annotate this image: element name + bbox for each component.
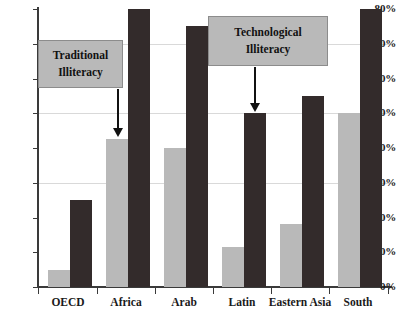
arrow-head-traditional xyxy=(113,128,123,137)
callout-technological-line2: Illiteracy xyxy=(246,41,291,58)
arrow-shaft-technological xyxy=(254,67,256,104)
bar-traditional-oecd xyxy=(48,270,70,287)
bar-technological-eastern-asia xyxy=(302,96,324,287)
callout-technological-line1: Technological xyxy=(234,24,301,41)
bar-traditional-africa xyxy=(106,139,128,287)
bar-technological-oecd xyxy=(70,200,92,287)
bar-traditional-south xyxy=(338,113,360,287)
x-category-label-latin: Latin xyxy=(214,296,270,308)
illiteracy-bar-chart: 80% 70% 60% 50% 40% 30% 20% 10% 0% OECD … xyxy=(0,0,396,316)
x-tick-mark-4 xyxy=(271,288,272,294)
bar-technological-south xyxy=(360,9,382,287)
x-tick-mark-1 xyxy=(97,288,98,294)
x-category-label-arab: Arab xyxy=(156,296,212,308)
x-tick-mark-3 xyxy=(213,288,214,294)
callout-technological-illiteracy: Technological Illiteracy xyxy=(208,16,328,66)
bar-traditional-arab xyxy=(164,148,186,287)
bar-technological-latin xyxy=(244,113,266,287)
x-tick-mark-5 xyxy=(329,288,330,294)
callout-traditional-line1: Traditional xyxy=(53,47,108,64)
x-category-label-south: South xyxy=(330,296,386,308)
x-category-label-africa: Africa xyxy=(98,296,154,308)
arrow-head-technological xyxy=(250,103,260,112)
x-category-label-eastern-asia: Eastern Asia xyxy=(268,296,332,308)
bar-traditional-eastern-asia xyxy=(280,224,302,287)
x-tick-mark-0 xyxy=(38,288,39,294)
callout-traditional-illiteracy: Traditional Illiteracy xyxy=(38,40,123,88)
x-tick-mark-2 xyxy=(155,288,156,294)
bar-traditional-latin xyxy=(222,247,244,287)
x-category-label-oecd: OECD xyxy=(40,296,96,308)
bar-technological-arab xyxy=(186,26,208,287)
x-tick-mark-6 xyxy=(388,288,389,294)
arrow-shaft-traditional xyxy=(117,89,119,129)
callout-traditional-line2: Illiteracy xyxy=(58,64,103,81)
bar-technological-africa xyxy=(128,9,150,287)
